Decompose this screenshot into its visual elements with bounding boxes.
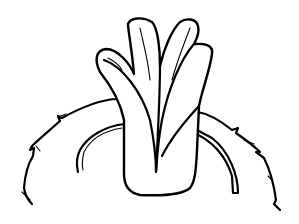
outer-ring-right — [198, 112, 280, 210]
inner-arc-right — [192, 128, 238, 193]
outer-ring-left — [24, 99, 116, 204]
illustration — [0, 0, 299, 224]
inner-arc-left — [77, 124, 125, 172]
stalk — [97, 18, 213, 195]
plant-drawing — [0, 0, 299, 224]
